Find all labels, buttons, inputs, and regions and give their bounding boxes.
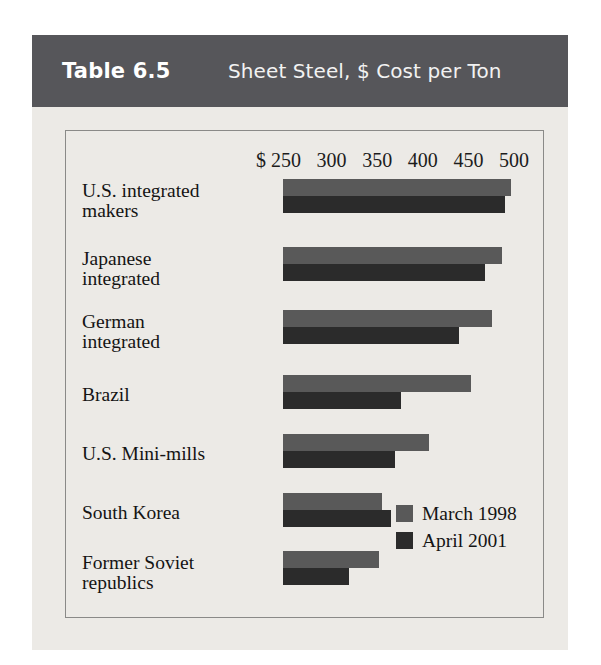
axis-tick-350: 350 (362, 149, 392, 172)
bar-row: U.S. integratedmakers (66, 179, 545, 223)
row-label: Japaneseintegrated (82, 249, 267, 289)
figure-page: Table 6.5 Sheet Steel, $ Cost per Ton $2… (0, 0, 601, 665)
bar-march-1998 (283, 493, 382, 510)
legend-swatch (396, 505, 413, 522)
bar-april-2001 (283, 510, 391, 527)
bar-row: Brazil (66, 375, 545, 419)
bar-row: Germanintegrated (66, 310, 545, 354)
bar-row: Former Sovietrepublics (66, 551, 545, 595)
bar-april-2001 (283, 451, 395, 468)
bar-april-2001 (283, 392, 401, 409)
bar-april-2001 (283, 568, 349, 585)
bar-march-1998 (283, 434, 429, 451)
bar-march-1998 (283, 310, 492, 327)
bar-march-1998 (283, 375, 471, 392)
axis-tick-450: 450 (453, 149, 483, 172)
legend-item: April 2001 (396, 527, 546, 554)
x-axis-tick-labels: $250300350400450500 (66, 149, 545, 175)
bar-april-2001 (283, 264, 485, 281)
axis-tick-300: 300 (317, 149, 347, 172)
axis-tick-400: 400 (408, 149, 438, 172)
bar-march-1998 (283, 247, 502, 264)
table-title: Sheet Steel, $ Cost per Ton (228, 59, 502, 83)
card-header: Table 6.5 Sheet Steel, $ Cost per Ton (32, 35, 568, 107)
bar-row: Japaneseintegrated (66, 247, 545, 291)
axis-tick-250: 250 (271, 149, 301, 172)
axis-currency-symbol: $ (256, 149, 266, 172)
bar-row: U.S. Mini-mills (66, 434, 545, 478)
legend-swatch (396, 532, 413, 549)
bar-march-1998 (283, 179, 511, 196)
row-label: Former Sovietrepublics (82, 553, 267, 593)
row-label: Germanintegrated (82, 312, 267, 352)
axis-tick-500: 500 (499, 149, 529, 172)
chart-legend: March 1998April 2001 (396, 500, 546, 554)
legend-label: April 2001 (422, 530, 507, 552)
bar-march-1998 (283, 551, 379, 568)
row-label: U.S. integratedmakers (82, 181, 267, 221)
bar-april-2001 (283, 327, 459, 344)
bar-april-2001 (283, 196, 505, 213)
table-card: Table 6.5 Sheet Steel, $ Cost per Ton $2… (32, 35, 568, 650)
row-label: South Korea (82, 503, 267, 523)
table-number: Table 6.5 (62, 59, 171, 83)
row-label: Brazil (82, 385, 267, 405)
legend-label: March 1998 (422, 503, 517, 525)
chart-plot-area: $250300350400450500 U.S. integratedmaker… (65, 130, 544, 618)
legend-item: March 1998 (396, 500, 546, 527)
row-label: U.S. Mini-mills (82, 444, 267, 464)
